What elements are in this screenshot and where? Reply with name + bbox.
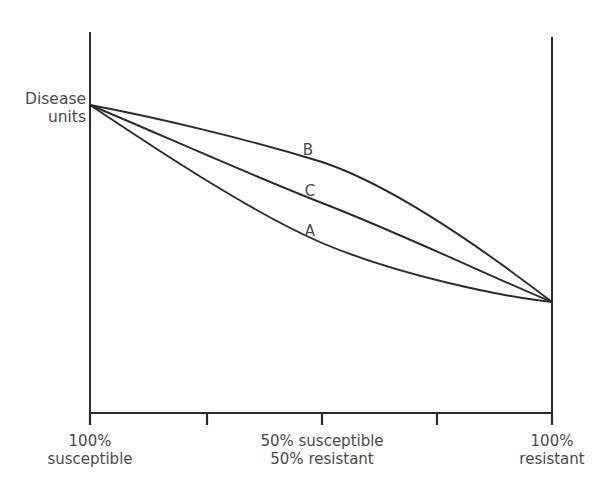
chart-figure: Disease units B C A 100% susceptible 50%… (0, 0, 613, 485)
curve-label-a: A (305, 222, 316, 240)
x-tick-label-4-line1: 100% (531, 432, 574, 450)
y-axis-label-line2: units (48, 108, 86, 126)
x-tick-label-2-line2: 50% resistant (270, 450, 374, 468)
curve-series-c (90, 105, 552, 302)
curve-label-c: C (305, 182, 315, 200)
x-tick-label-0-line2: susceptible (47, 450, 132, 468)
x-tick-label-4-line2: resistant (519, 450, 584, 468)
curve-label-b: B (303, 141, 313, 159)
y-axis-label-line1: Disease (25, 90, 86, 108)
x-tick-label-0-line1: 100% (69, 432, 112, 450)
x-tick-label-2-line1: 50% susceptible (260, 432, 383, 450)
